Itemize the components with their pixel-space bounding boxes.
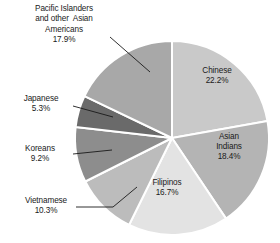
slice-label-koreans: Koreans 9.2% [2, 144, 78, 165]
pie-chart: Pacific Islanders and other Asian Americ… [0, 0, 280, 243]
slice-label-asian-indians: Asian Indians 18.4% [200, 132, 258, 162]
slice-label-japanese: Japanese 5.3% [4, 94, 78, 115]
slice-label-pacific-islanders: Pacific Islanders and other Asian Americ… [12, 4, 116, 45]
slice-label-chinese: Chinese 22.2% [186, 66, 248, 86]
slice-label-filipinos: Filipinos 16.7% [136, 178, 198, 198]
slice-label-vietnamese: Vietnamese 10.3% [2, 196, 90, 217]
